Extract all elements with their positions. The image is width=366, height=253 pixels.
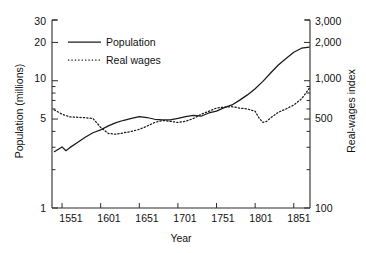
y-left-ticks bbox=[52, 20, 58, 208]
series-line-population bbox=[54, 47, 309, 152]
axis-frame bbox=[52, 20, 310, 208]
x-ticks bbox=[62, 203, 294, 208]
chart-figure: Population (millions) Real-wages index Y… bbox=[0, 0, 366, 253]
series-line-real-wages bbox=[54, 88, 309, 134]
plot-area bbox=[0, 0, 366, 253]
